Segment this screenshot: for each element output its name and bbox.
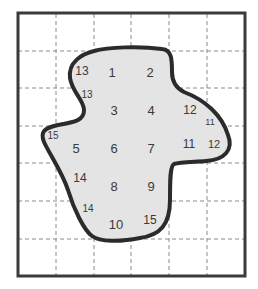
square-label: 15	[47, 130, 59, 141]
diagram-canvas: 13 1 2 13 3 4 12 11 15 5 6 7 11 12 14 8 …	[0, 0, 258, 289]
square-label: 12	[208, 138, 220, 150]
square-label: 3	[110, 103, 117, 118]
square-label: 7	[147, 141, 154, 156]
square-label: 2	[146, 65, 153, 80]
square-label: 9	[147, 179, 154, 194]
square-label: 14	[82, 203, 94, 214]
square-label: 4	[147, 103, 154, 118]
square-label: 12	[183, 103, 197, 117]
grid-diagram: 13 1 2 13 3 4 12 11 15 5 6 7 11 12 14 8 …	[0, 0, 258, 289]
square-label: 11	[183, 137, 196, 151]
irregular-shape	[43, 47, 230, 241]
square-label: 13	[75, 64, 89, 78]
square-label: 5	[72, 141, 79, 156]
square-label: 1	[108, 65, 115, 80]
square-label: 14	[73, 171, 87, 185]
square-label: 15	[143, 213, 157, 227]
square-label: 8	[110, 179, 117, 194]
square-label: 6	[110, 141, 117, 156]
square-label: 13	[81, 89, 93, 100]
square-label: 11	[205, 117, 214, 127]
square-label: 10	[109, 217, 123, 232]
